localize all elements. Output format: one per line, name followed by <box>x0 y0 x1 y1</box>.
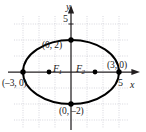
label-vertex-right: (3, 0) <box>107 61 127 71</box>
x-axis-arrow <box>131 69 140 75</box>
focus-2-subscript: 2 <box>82 68 85 76</box>
point-focus-1 <box>47 70 52 75</box>
label-covertex-bottom: (0, –2) <box>59 107 84 117</box>
label-focus-1: F1 <box>53 64 62 76</box>
label-covertex-top: (0, 2) <box>42 41 62 51</box>
point-covertex-top <box>68 37 73 42</box>
label-vertex-left: (–3, 0) <box>2 79 27 89</box>
x-axis-label: x <box>130 80 134 90</box>
point-vertex-left <box>20 69 25 74</box>
point-focus-2 <box>93 70 98 75</box>
y-axis-tick-label: 5 <box>63 14 68 24</box>
focus-1-subscript: 1 <box>59 68 62 76</box>
ellipse-figure: y 5 x 5 (0, 2) (0, –2) (3, 0) (–3, 0) F1… <box>0 0 146 132</box>
x-axis-tick-label: 5 <box>118 78 123 88</box>
label-focus-2: F2 <box>76 64 85 76</box>
y-axis-label: y <box>66 2 70 12</box>
